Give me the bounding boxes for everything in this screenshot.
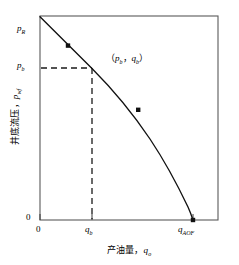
annotation-close-paren: ） <box>139 53 148 63</box>
y-tick-label-zero: 0 <box>26 212 31 222</box>
y-tick-pb-subscript: b <box>22 66 25 72</box>
x-tick-origin-text: 0 <box>36 224 41 234</box>
annotation-open-paren: （ <box>106 53 115 63</box>
ipr-curve-figure: pR pb 0 0 qb qAOF （pb，qb） 井底流压，pwf 产油量，q… <box>0 0 239 265</box>
y-axis-title-symbol: p <box>10 95 20 100</box>
y-tick-zero-text: 0 <box>26 212 31 222</box>
y-axis-title-text: 井底流压， <box>10 99 20 145</box>
x-tick-label-qb: qb <box>85 224 93 236</box>
x-axis-title-text: 产油量， <box>107 245 144 255</box>
y-axis-title-subscript: wf <box>16 89 22 95</box>
annotation-separator: ， <box>123 53 132 63</box>
y-tick-pr-subscript: R <box>22 29 26 35</box>
bubble-point-annotation: （pb，qb） <box>106 51 148 65</box>
x-tick-qaof-subscript: AOF <box>183 230 195 236</box>
data-marker-2 <box>136 108 140 112</box>
data-marker-1 <box>66 43 70 47</box>
y-tick-label-pr: pR <box>17 23 25 35</box>
x-axis-title: 产油量，qo <box>40 243 218 257</box>
data-marker-3 <box>191 218 195 222</box>
x-tick-qb-subscript: b <box>90 230 93 236</box>
ipr-curve <box>40 17 193 220</box>
y-axis-title: 井底流压，pwf <box>8 57 22 177</box>
x-axis-title-subscript: o <box>148 251 151 257</box>
x-tick-label-origin: 0 <box>36 224 41 234</box>
x-tick-label-qaof: qAOF <box>178 224 194 236</box>
